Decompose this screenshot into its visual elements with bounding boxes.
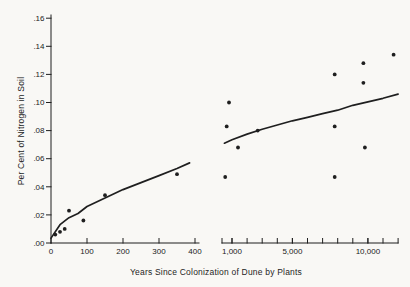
x-tick-label: 200 [116, 247, 130, 256]
data-point [363, 146, 367, 150]
x-tick-label: 0 [49, 247, 54, 256]
data-point [227, 101, 231, 105]
y-tick-label: .02 [33, 211, 45, 220]
x-tick-label: 100 [80, 247, 94, 256]
data-point [63, 227, 67, 231]
data-point [256, 129, 260, 133]
x-tick-label: 1,000 [222, 247, 243, 256]
data-point [82, 219, 86, 223]
data-point [175, 172, 179, 176]
data-point [58, 230, 62, 234]
y-tick-label: .16 [33, 14, 45, 23]
data-point [103, 193, 107, 197]
x-axis-title: Years Since Colonization of Dune by Plan… [130, 267, 302, 277]
data-point [362, 81, 366, 85]
x-tick-label: 300 [152, 247, 166, 256]
y-tick-label: .14 [33, 42, 45, 51]
data-point [333, 175, 337, 179]
data-point [333, 125, 337, 129]
y-tick-label: .00 [33, 239, 45, 248]
y-tick-label: .10 [33, 98, 45, 107]
y-tick-label: .08 [33, 126, 45, 135]
data-point [333, 73, 337, 77]
y-tick-label: .06 [33, 154, 45, 163]
y-axis-title: Per Cent of Nitrogen in Soil [16, 77, 26, 186]
fitted-curve [51, 163, 190, 238]
chart-canvas: .00.02.04.06.08.10.12.14.160100200300400… [0, 0, 410, 287]
x-tick-label: 10,000 [356, 247, 381, 256]
data-point [236, 146, 240, 150]
y-tick-label: .04 [33, 183, 45, 192]
data-point [362, 61, 366, 65]
data-point [67, 209, 71, 213]
fitted-curve [224, 94, 398, 143]
nitrogen-dune-scatter-figure: .00.02.04.06.08.10.12.14.160100200300400… [0, 0, 410, 287]
data-point [225, 125, 229, 129]
data-point [392, 53, 396, 57]
data-point [53, 233, 57, 237]
data-point [223, 175, 227, 179]
y-tick-label: .12 [33, 70, 45, 79]
x-tick-label: 5,000 [282, 247, 303, 256]
x-tick-label: 400 [188, 247, 202, 256]
